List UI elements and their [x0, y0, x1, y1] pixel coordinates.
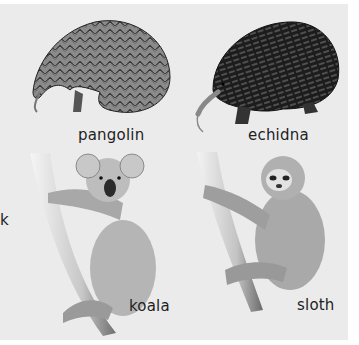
pangolin-label: pangolin: [78, 128, 144, 143]
sloth-illustration: [195, 150, 335, 315]
echidna-label: echidna: [248, 128, 309, 143]
stray-text: k: [0, 213, 9, 228]
koala-label: koala: [129, 299, 170, 314]
sloth-label: sloth: [297, 298, 335, 313]
echidna-illustration: [193, 14, 343, 134]
pangolin-illustration: [25, 12, 175, 114]
